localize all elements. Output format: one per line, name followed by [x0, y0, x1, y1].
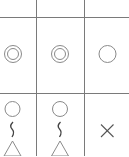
circle-squiggle-triangle-icon [52, 102, 69, 157]
triangle-icon [4, 141, 21, 156]
squiggle-icon [11, 122, 14, 137]
circle-icon [99, 46, 116, 63]
double-circle-icon [52, 46, 69, 63]
circle-icon [53, 102, 68, 117]
cross-icon [101, 125, 114, 138]
squiggle-icon [58, 122, 61, 137]
circle-squiggle-triangle-icon [4, 102, 21, 157]
triangle-icon [52, 141, 69, 156]
circle-icon [5, 102, 20, 117]
symbol-grid-diagram [0, 0, 129, 156]
double-circle-icon [5, 46, 22, 63]
